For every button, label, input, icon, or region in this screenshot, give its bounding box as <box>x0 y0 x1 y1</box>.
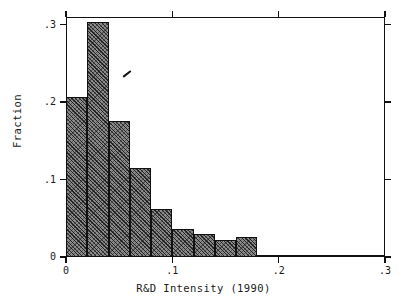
y-axis-tick-right <box>385 101 391 102</box>
x-axis-tick-label: .3 <box>372 266 398 276</box>
x-axis-title: R&D Intensity (1990) <box>0 282 407 294</box>
y-axis-tick-right <box>385 179 391 180</box>
y-axis-title: Fraction <box>11 81 23 161</box>
histogram-bar <box>236 237 257 257</box>
x-axis-tick-label: 0 <box>53 266 79 276</box>
histogram-bar <box>215 240 236 257</box>
x-axis-tick <box>278 257 279 263</box>
y-axis-tick-right <box>385 256 391 257</box>
histogram-bar <box>130 168 151 257</box>
y-axis-tick-label: 0 <box>30 252 56 262</box>
histogram-bar <box>257 255 278 257</box>
x-axis-tick-top <box>172 11 173 17</box>
x-axis-tick <box>65 257 66 263</box>
x-axis-tick-label: .2 <box>266 266 292 276</box>
x-axis-tick <box>172 257 173 263</box>
x-axis-tick-top <box>65 11 66 17</box>
y-axis-tick-label: .3 <box>30 20 56 30</box>
y-axis-tick-label: .2 <box>30 97 56 107</box>
histogram-bar <box>151 209 172 257</box>
histogram-bar <box>194 234 215 257</box>
histogram-bar <box>300 255 385 257</box>
histogram-bar <box>87 22 108 257</box>
x-axis-tick-label: .1 <box>159 266 185 276</box>
y-axis-tick <box>60 101 66 102</box>
x-axis-tick <box>384 257 385 263</box>
y-axis-tick-label: .1 <box>30 175 56 185</box>
histogram-bar <box>66 97 87 257</box>
x-axis-tick-top <box>278 11 279 17</box>
y-axis-tick <box>60 24 66 25</box>
histogram-bar <box>172 229 193 257</box>
histogram-bar <box>279 255 300 257</box>
y-axis-tick <box>60 179 66 180</box>
histogram-bar <box>109 121 130 257</box>
y-axis-tick-right <box>385 24 391 25</box>
bars-layer <box>66 17 385 257</box>
histogram-figure: 0.1.2.30.1.2.3 Fraction R&D Intensity (1… <box>0 0 407 303</box>
x-axis-tick-top <box>384 11 385 17</box>
